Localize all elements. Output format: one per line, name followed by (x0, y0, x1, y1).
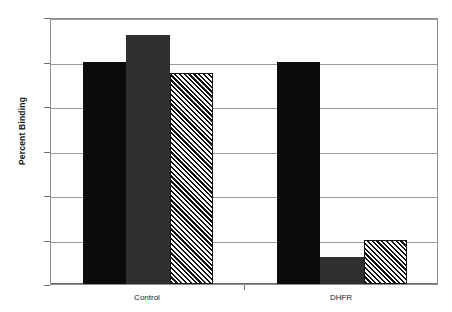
x-label-dhfr: DHFR (330, 293, 352, 302)
gridline-120 (51, 19, 437, 20)
x-tick-mark-1 (244, 285, 245, 290)
bar-dhfr-series-1 (277, 62, 321, 285)
y-tick-mark-0 (44, 285, 50, 286)
bar-chart: Percent Binding 020406080100120 ControlD… (0, 0, 452, 312)
y-axis-title: Percent Binding (17, 71, 27, 191)
bar-control-series-2 (126, 35, 170, 284)
x-label-control: Control (134, 293, 160, 302)
bar-control-series-3 (170, 73, 214, 284)
bar-control-series-1 (83, 62, 127, 285)
bar-dhfr-series-2 (320, 257, 364, 284)
plot-area (50, 18, 438, 285)
bar-dhfr-series-3 (364, 240, 408, 285)
